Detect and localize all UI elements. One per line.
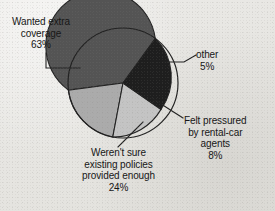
slice-label-value: 8% <box>184 150 247 162</box>
slice-label-other: other 5% <box>196 49 218 72</box>
slice-label-value: 24% <box>82 182 155 194</box>
slice-label-line: Weren't sure <box>82 147 155 159</box>
slice-label-werent-sure: Weren't sure existing policies provided … <box>82 147 155 193</box>
slice-label-value: 5% <box>196 61 218 73</box>
slice-label-line: Wanted extra <box>12 16 70 28</box>
slice-label-line: coverage <box>12 28 70 40</box>
slice-label-line: by rental-car <box>184 127 247 139</box>
pie-chart-figure: Wanted extra coverage 63% other 5% Felt … <box>0 0 275 211</box>
slice-label-line: provided enough <box>82 170 155 182</box>
slice-label-felt-pressured: Felt pressured by rental-car agents 8% <box>184 115 247 161</box>
slice-label-line: Felt pressured <box>184 115 247 127</box>
slice-label-line: agents <box>184 138 247 150</box>
slice-label-line: other <box>196 49 218 61</box>
slice-label-line: existing policies <box>82 159 155 171</box>
slice-label-value: 63% <box>12 39 70 51</box>
slice-label-wanted-extra-coverage: Wanted extra coverage 63% <box>12 16 70 51</box>
